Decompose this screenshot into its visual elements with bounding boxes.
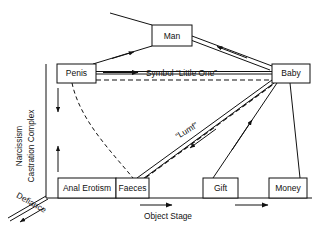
node-baby[interactable]: Baby: [272, 64, 310, 83]
node-gift-label: Gift: [214, 183, 228, 193]
edge-baby-to-man-a: [192, 36, 272, 66]
edge-gift-to-baby-arrow: [232, 120, 252, 150]
node-money[interactable]: Money: [269, 178, 307, 198]
edge-baby-to-money: [290, 83, 300, 178]
node-baby-label: Baby: [281, 68, 301, 78]
edge-lumf-arrow: [190, 129, 216, 148]
edge-label-lumf: “Lumf”: [174, 120, 200, 141]
node-anal-erotism[interactable]: Anal Erotism: [58, 178, 116, 198]
edge-label-symbol-little-one: Symbol “Little One”: [146, 68, 217, 78]
edge-baby-to-man-b: [192, 41, 270, 71]
diagram-root: Man Penis Baby Anal Erotism Faeces Gift …: [0, 0, 321, 237]
edge-penis-to-faeces-curve: [72, 83, 133, 178]
node-faeces[interactable]: Faeces: [116, 178, 149, 198]
axis-label-narcissism: Narcissism: [14, 126, 24, 167]
diagram-canvas: Man Penis Baby Anal Erotism Faeces Gift …: [0, 0, 321, 237]
node-penis[interactable]: Penis: [57, 64, 96, 83]
node-gift[interactable]: Gift: [203, 178, 238, 198]
node-faeces-label: Faeces: [119, 183, 147, 193]
node-money-label: Money: [275, 183, 301, 193]
axis-label-object-stage: Object Stage: [144, 211, 192, 221]
edge-faeces-to-baby-b: [140, 83, 274, 181]
edge-faeces-to-baby-a: [137, 80, 272, 178]
edge-faeces-to-baby-dashed: [139, 85, 273, 183]
node-anal-erotism-label: Anal Erotism: [63, 183, 111, 193]
edge-baby-to-man-arrow: [217, 47, 247, 59]
edge-incoming-to-man: [110, 13, 152, 25]
axis-label-castration-complex: Castration Complex: [26, 109, 36, 183]
node-penis-label: Penis: [66, 68, 87, 78]
edge-penis-to-man-arrow: [112, 52, 134, 59]
node-man-label: Man: [164, 31, 181, 41]
node-man[interactable]: Man: [152, 25, 192, 46]
